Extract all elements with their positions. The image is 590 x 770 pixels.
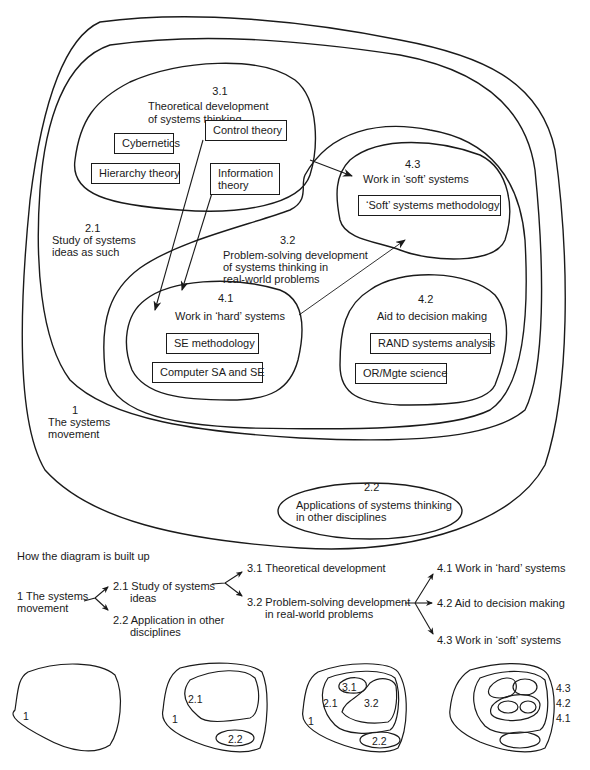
thumbnail-4-region-3-2 [474, 671, 548, 733]
buildup-arrow-1-to-2-2 [95, 598, 108, 610]
box-information-theory-line1: Information [218, 167, 272, 179]
buildup-4-3-number: 4.3 [437, 634, 452, 646]
box-se-methodology: SE methodology [166, 333, 259, 354]
buildup-2-2-number: 2.2 [113, 614, 128, 626]
thumbnail-4-outline [450, 664, 554, 752]
box-information-theory: Information theory [210, 163, 280, 195]
buildup-4-2-line1: Aid to decision making [455, 597, 565, 609]
region-4-2-label: Aid to decision making [377, 310, 487, 323]
buildup-level1-number: 1 [17, 590, 23, 602]
buildup-4-1-number: 4.1 [437, 562, 452, 574]
buildup-4-1-line1: Work in ‘hard’ systems [455, 562, 565, 574]
box-control-theory: Control theory [205, 120, 287, 141]
box-or-mgte-science: OR/Mgte science [355, 363, 447, 384]
buildup-2-1: 2.1 Study of systems [113, 580, 215, 593]
arrow-3-1-to-4-3 [310, 160, 352, 176]
thumbnail-3-label-2-1: 2.1 [323, 697, 338, 710]
buildup-arrow-2-1-to-3-1 [212, 572, 242, 584]
buildup-2-1-number: 2.1 [113, 580, 128, 592]
thumbnail-4-label-4-2: 4.2 [556, 697, 571, 710]
buildup-title: How the diagram is built up [17, 550, 150, 563]
region-3-1-number: 3.1 [170, 85, 270, 98]
buildup-2-2-line1: Application in other [131, 614, 225, 626]
buildup-2-2-line2: disciplines [130, 626, 181, 639]
region-4-1-number: 4.1 [218, 292, 233, 305]
region-2-2-number: 2.2 [364, 481, 379, 494]
buildup-3-1-line1: Theoretical development [265, 562, 385, 574]
buildup-3-1-number: 3.1 [247, 562, 262, 574]
region-4-2-number: 4.2 [418, 293, 433, 306]
buildup-3-2-line1: Problem-solving development [265, 596, 410, 608]
thumbnail-4-label-4-1: 4.1 [556, 712, 571, 725]
thumbnail-3-label-2-2: 2.2 [372, 735, 387, 748]
region-3-2-number: 3.2 [280, 234, 295, 247]
thumbnail-4-region-4-1 [498, 701, 518, 713]
buildup-4-3: 4.3 Work in ‘soft’ systems [437, 634, 561, 647]
buildup-arrow-3-2-to-4-3 [415, 603, 433, 634]
box-rand-systems-analysis: RAND systems analysis [370, 333, 491, 354]
region-2-1-label-line2: ideas as such [52, 246, 119, 259]
arrow-information-theory-to-4-1 [182, 193, 212, 290]
thumbnail-4-region-4-2 [520, 701, 536, 713]
region-3-1-label-line1: Theoretical development [148, 100, 268, 113]
buildup-arrow-2-1-to-3-2 [225, 583, 242, 596]
buildup-level1-line1: The systems [26, 590, 88, 602]
thumbnail-3-label-3-1: 3.1 [342, 681, 357, 694]
thumbnail-2-outline [162, 663, 267, 752]
buildup-level1-line2: movement [17, 602, 68, 615]
box-cybernetics: Cybernetics [114, 133, 174, 154]
diagram-canvas [0, 0, 590, 770]
buildup-3-2-line2: in real-world problems [265, 608, 373, 621]
buildup-4-2: 4.2 Aid to decision making [437, 597, 565, 610]
region-4-3-label: Work in ‘soft’ systems [363, 173, 469, 186]
box-computer-sa-and-se: Computer SA and SE [152, 362, 263, 383]
thumbnail-4-region-2-2 [500, 732, 540, 748]
thumbnail-3-outline [302, 664, 406, 752]
region-1-label-line2: movement [48, 428, 99, 441]
region-2-2-label-line2: in other disciplines [296, 511, 387, 524]
buildup-2-1-line2: ideas [130, 592, 156, 605]
buildup-4-3-line1: Work in ‘soft’ systems [455, 634, 561, 646]
box-soft-systems-methodology: ‘Soft’ systems methodology [358, 195, 501, 216]
thumbnail-2-label-1: 1 [172, 713, 178, 726]
region-4-3-number: 4.3 [405, 158, 420, 171]
region-3-2-label-line3: real-world problems [223, 273, 320, 286]
thumbnail-3-label-1: 1 [308, 715, 314, 728]
thumbnail-3-label-3-2: 3.2 [364, 697, 379, 710]
box-hierarchy-theory: Hierarchy theory [91, 163, 180, 184]
box-information-theory-line2: theory [218, 179, 272, 191]
buildup-3-1: 3.1 Theoretical development [247, 562, 386, 575]
region-4-1-label: Work in ‘hard’ systems [175, 310, 285, 323]
buildup-2-1-line1: Study of systems [131, 580, 215, 592]
thumbnail-1-outline [13, 664, 120, 751]
buildup-4-1: 4.1 Work in ‘hard’ systems [437, 562, 565, 575]
thumbnail-2-label-2-1: 2.1 [188, 693, 203, 706]
thumbnail-2-label-2-2: 2.2 [228, 733, 243, 746]
buildup-3-2-number: 3.2 [247, 596, 262, 608]
buildup-4-2-number: 4.2 [437, 597, 452, 609]
thumbnail-4-label-4-3: 4.3 [556, 682, 571, 695]
thumbnail-1-label-1: 1 [23, 710, 29, 723]
